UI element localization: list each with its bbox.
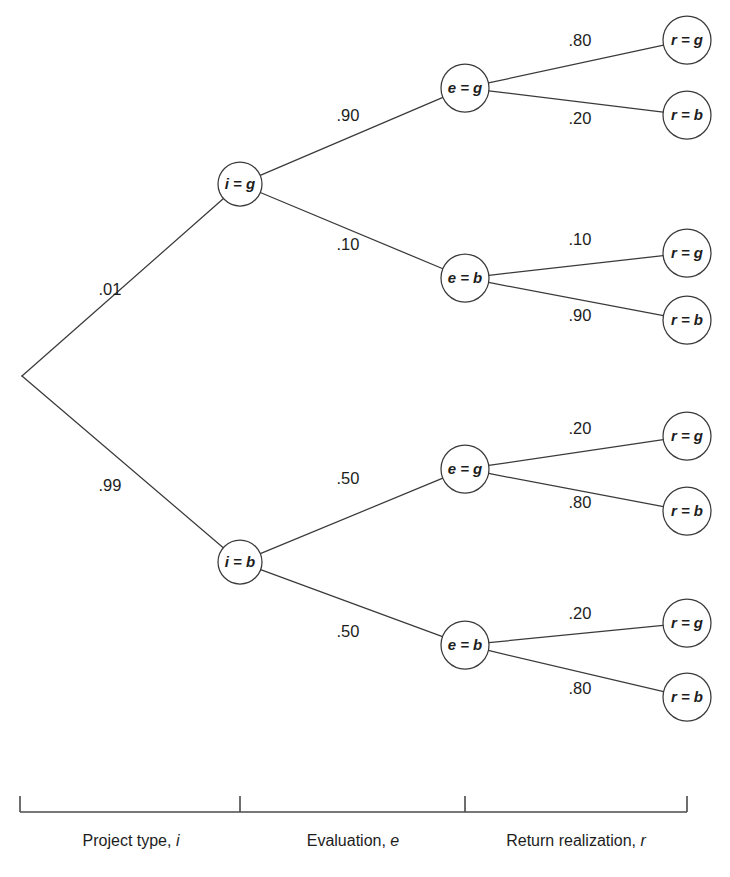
edge-probability-e_b_1-to-r_b_2: .90 [569,306,592,324]
node-label-r_b_4: r = b [671,688,703,705]
tree-node-i_g: i = g [218,162,262,206]
tree-node-e_b_2: e = b [441,621,489,669]
edge-probability-i_b-to-e_b_2: .50 [337,622,360,640]
tree-edge-e_b_2-to-r_g_4 [489,625,663,642]
axis-stage-label-2: Evaluation, e [307,832,400,849]
node-label-r_b_2: r = b [671,311,703,328]
tree-edge-e_b_1-to-r_g_2 [489,256,663,276]
edge-probability-e_b_2-to-r_b_4: .80 [569,679,592,697]
edge-probability-e_g_1-to-r_b_1: .20 [569,109,592,127]
node-label-r_g_1: r = g [671,31,703,48]
tree-edge-i_g-to-e_b_1 [260,192,443,268]
node-label-e_b_2: e = b [448,636,483,653]
node-label-r_g_4: r = g [671,614,703,631]
node-label-e_g_1: e = g [448,79,483,96]
tree-node-e_b_1: e = b [441,254,489,302]
node-label-i_g: i = g [225,175,255,192]
tree-edge-root-to-i_g [22,199,223,376]
tree-node-r_b_2: r = b [663,296,711,344]
tree-edge-root-to-i_b [22,376,223,548]
edge-probability-e_g_2-to-r_g_3: .20 [569,419,592,437]
node-label-e_b_1: e = b [448,269,483,286]
tree-node-e_g_1: e = g [441,64,489,112]
axis-stage-label-3: Return realization, r [506,832,646,849]
node-label-r_g_3: r = g [671,427,703,444]
tree-node-r_b_4: r = b [663,673,711,721]
edge-probability-i_b-to-e_g_2: .50 [337,469,360,487]
tree-node-r_g_4: r = g [663,599,711,647]
node-label-r_g_2: r = g [671,244,703,261]
tree-diagram-svg: i = gi = be = ge = be = ge = br = gr = b… [0,0,730,877]
tree-node-e_g_2: e = g [441,445,489,493]
edges-group [22,45,664,691]
tree-node-r_b_3: r = b [663,487,711,535]
tree-node-r_g_3: r = g [663,412,711,460]
edge-probability-e_b_2-to-r_g_4: .20 [569,604,592,622]
tree-edge-e_g_2-to-r_g_3 [489,440,664,466]
node-label-r_b_1: r = b [671,106,703,123]
node-label-e_g_2: e = g [448,460,483,477]
edge-probability-i_g-to-e_b_1: .10 [337,235,360,253]
node-label-r_b_3: r = b [671,502,703,519]
edge-probability-e_g_1-to-r_g_1: .80 [569,31,592,49]
edge-probability-i_g-to-e_g_1: .90 [337,106,360,124]
tree-edge-e_g_1-to-r_g_1 [488,45,663,83]
tree-node-r_g_1: r = g [663,16,711,64]
edge-probability-e_b_1-to-r_g_2: .10 [569,230,592,248]
probability-labels-group: .01.99.90.10.50.50.80.20.10.90.20.80.20.… [99,31,592,697]
tree-edge-i_b-to-e_g_2 [260,478,442,553]
edge-probability-e_g_2-to-r_b_3: .80 [569,493,592,511]
probability-tree-figure: i = gi = be = ge = be = ge = br = gr = b… [0,0,730,877]
tree-node-r_g_2: r = g [663,229,711,277]
edge-probability-root-to-i_b: .99 [99,476,122,494]
nodes-group: i = gi = be = ge = be = ge = br = gr = b… [218,16,711,721]
node-label-i_b: i = b [225,553,255,570]
tree-node-r_b_1: r = b [663,91,711,139]
edge-probability-root-to-i_g: .01 [99,280,122,298]
stage-axis-group: Project type, iEvaluation, eReturn reali… [20,796,687,849]
axis-stage-label-1: Project type, i [83,832,180,849]
tree-node-i_b: i = b [218,540,262,584]
